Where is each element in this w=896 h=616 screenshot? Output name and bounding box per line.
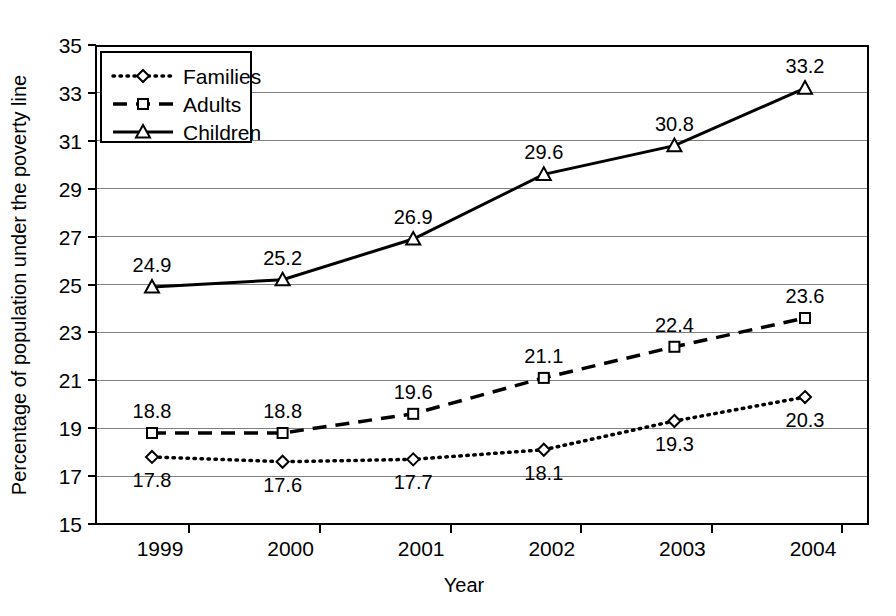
legend-label: Adults xyxy=(183,93,241,116)
legend: FamiliesAdultsChildren xyxy=(101,52,261,144)
y-tick-label: 19 xyxy=(59,417,82,440)
data-label: 29.6 xyxy=(524,141,563,163)
data-label: 17.6 xyxy=(263,474,302,496)
x-tick-label: 2003 xyxy=(659,537,706,560)
data-label: 26.9 xyxy=(394,206,433,228)
data-label: 21.1 xyxy=(524,345,563,367)
y-tick-label: 17 xyxy=(59,465,82,488)
legend-label: Families xyxy=(183,65,261,88)
data-label: 33.2 xyxy=(786,55,825,77)
y-tick-label: 35 xyxy=(59,34,82,57)
x-tick-label: 2002 xyxy=(528,537,575,560)
data-label: 18.1 xyxy=(524,462,563,484)
y-tick-label: 21 xyxy=(59,369,82,392)
x-tick-label: 2004 xyxy=(790,537,837,560)
data-label: 23.6 xyxy=(786,285,825,307)
data-label: 25.2 xyxy=(263,247,302,269)
data-label: 18.8 xyxy=(263,400,302,422)
data-label: 30.8 xyxy=(655,113,694,135)
square-marker xyxy=(800,313,810,323)
square-marker xyxy=(147,428,157,438)
data-label: 17.7 xyxy=(394,471,433,493)
data-label: 17.8 xyxy=(133,469,172,491)
data-label: 20.3 xyxy=(786,409,825,431)
x-tick-labels: 199920002001200220032004 xyxy=(137,537,837,560)
poverty-line-chart: 1517192123252729313335 19992000200120022… xyxy=(0,0,896,616)
x-axis-title: Year xyxy=(444,574,485,596)
x-tick-marks xyxy=(189,524,842,533)
x-tick-label: 2001 xyxy=(398,537,445,560)
data-label: 18.8 xyxy=(133,400,172,422)
chart-canvas: 1517192123252729313335 19992000200120022… xyxy=(0,0,896,616)
data-label: 22.4 xyxy=(655,314,694,336)
y-tick-label: 15 xyxy=(59,513,82,536)
square-marker xyxy=(138,99,148,109)
data-label: 19.3 xyxy=(655,433,694,455)
legend-label: Children xyxy=(183,121,261,144)
data-label: 24.9 xyxy=(133,254,172,276)
square-marker xyxy=(408,409,418,419)
y-tick-labels: 1517192123252729313335 xyxy=(59,34,82,536)
y-tick-label: 25 xyxy=(59,274,82,297)
x-tick-label: 1999 xyxy=(137,537,184,560)
data-label: 19.6 xyxy=(394,381,433,403)
y-tick-marks xyxy=(88,45,96,524)
y-tick-label: 23 xyxy=(59,321,82,344)
y-tick-label: 31 xyxy=(59,130,82,153)
y-tick-label: 27 xyxy=(59,226,82,249)
square-marker xyxy=(278,428,288,438)
square-marker xyxy=(669,342,679,352)
y-tick-label: 33 xyxy=(59,82,82,105)
square-marker xyxy=(539,373,549,383)
x-tick-label: 2000 xyxy=(267,537,314,560)
y-axis-title: Percentage of population under the pover… xyxy=(8,75,30,495)
y-tick-label: 29 xyxy=(59,178,82,201)
